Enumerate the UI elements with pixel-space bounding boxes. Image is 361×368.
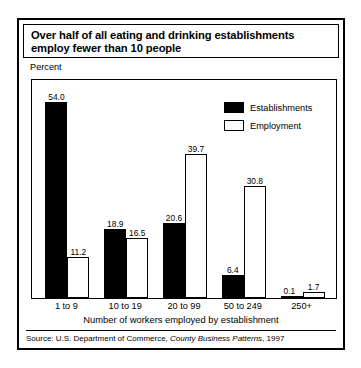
bar-employment: 11.2 [67,257,89,298]
bar-slot: 39.7 [185,80,207,298]
x-axis-label: Number of workers employed by establishm… [19,314,343,325]
bar-employment: 1.7 [303,292,325,298]
bar-establishments: 54.0 [45,102,67,298]
plot-area: Establishments Employment 54.011.218.916… [32,80,336,298]
source-divider [26,330,336,331]
bar-slot: 18.9 [104,80,126,298]
category-axis-labels: 1 to 910 to 1920 to 9950 to 249250+ [31,301,337,311]
bar-slot: 11.2 [67,80,89,298]
plot-frame: Establishments Employment 54.011.218.916… [31,79,337,299]
bar-value-label: 18.9 [107,220,123,229]
bar-value-label: 20.6 [166,214,182,223]
bar-employment: 39.7 [185,154,207,298]
category-label: 250+ [272,301,331,311]
bar-employment: 30.8 [244,186,266,298]
y-axis-label: Percent [30,62,62,72]
source-publication: County Business Patterns [170,334,262,343]
chart-page: Over half of all eating and drinking est… [0,0,361,368]
bar-establishments: 18.9 [104,229,126,298]
bar-value-label: 6.4 [227,266,239,275]
bar-group: 54.011.2 [38,80,97,298]
category-label: 50 to 249 [213,301,272,311]
bar-slot: 6.4 [222,80,244,298]
bar-employment: 16.5 [126,238,148,298]
bar-group: 20.639.7 [156,80,215,298]
bar-slot: 16.5 [126,80,148,298]
category-label: 20 to 99 [155,301,214,311]
bar-group: 18.916.5 [97,80,156,298]
bar-establishments: 6.4 [222,275,244,298]
chart-card: Over half of all eating and drinking est… [17,18,345,350]
bar-slot: 54.0 [45,80,67,298]
bar-group: 6.430.8 [214,80,273,298]
bar-slot: 30.8 [244,80,266,298]
bar-establishments: 0.1 [281,296,303,298]
bar-value-label: 54.0 [48,93,64,102]
title-box: Over half of all eating and drinking est… [23,24,339,58]
bar-establishments: 20.6 [163,223,185,298]
category-label: 10 to 19 [96,301,155,311]
bar-slot: 0.1 [281,80,303,298]
source-suffix: , 1997 [262,334,284,343]
category-label: 1 to 9 [37,301,96,311]
bar-value-label: 39.7 [188,145,204,154]
bar-slot: 20.6 [163,80,185,298]
bar-value-label: 0.1 [284,287,296,296]
source-prefix: Source: U.S. Department of Commerce, [26,334,170,343]
bar-value-label: 11.2 [71,248,87,257]
chart-title: Over half of all eating and drinking est… [31,29,331,55]
bar-slot: 1.7 [303,80,325,298]
bar-value-label: 16.5 [129,229,145,238]
source-note: Source: U.S. Department of Commerce, Cou… [26,334,284,343]
bar-value-label: 30.8 [247,177,263,186]
bar-groups: 54.011.218.916.520.639.76.430.80.11.7 [38,80,332,298]
bar-value-label: 1.7 [308,283,320,292]
bar-group: 0.11.7 [273,80,332,298]
